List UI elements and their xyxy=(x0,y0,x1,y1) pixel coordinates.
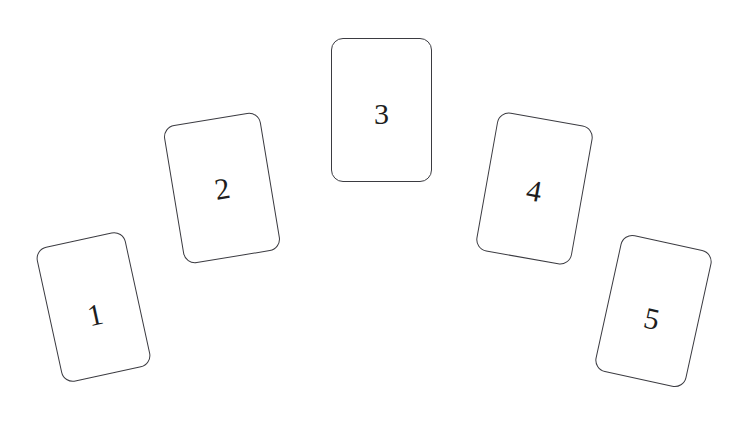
card-number-label: 3 xyxy=(374,99,389,129)
card-number-label: 2 xyxy=(212,173,232,205)
card-fan-canvas: 12345 xyxy=(0,0,742,424)
card-1[interactable]: 1 xyxy=(34,230,152,384)
card-5[interactable]: 5 xyxy=(593,233,714,390)
card-number-label: 1 xyxy=(85,299,106,332)
card-number-label: 5 xyxy=(641,303,662,336)
card-2[interactable]: 2 xyxy=(162,111,282,265)
card-3[interactable]: 3 xyxy=(331,38,432,182)
card-number-label: 4 xyxy=(524,175,544,207)
card-4[interactable]: 4 xyxy=(474,111,594,267)
